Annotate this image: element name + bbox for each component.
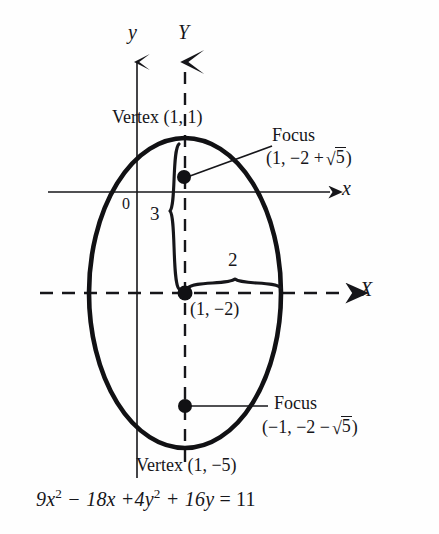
diagram-canvas	[0, 0, 439, 534]
focus-bottom-radicand: 5	[341, 416, 352, 436]
focus-bottom-close: )	[352, 417, 358, 437]
focus-top-title: Focus	[272, 126, 315, 145]
equation-term-plus-16y: + 16y	[166, 488, 214, 510]
focus-top-radicand: 5	[335, 147, 346, 167]
focus-top-coords-open: (1, −2 +	[266, 148, 324, 168]
focus-bottom-coords: (−1, −2 −√5)	[262, 417, 358, 437]
equation-term-minus-18x: − 18x	[67, 488, 115, 510]
semi-axis-horizontal-label: 2	[228, 250, 238, 270]
Y-axis-label: Y	[178, 22, 189, 43]
equation-term-9x2: 9x	[36, 488, 55, 510]
sqrt-icon-bottom: √5	[330, 417, 352, 437]
equation-term-4y2: +	[121, 488, 135, 510]
equation-rhs: = 11	[219, 488, 255, 510]
vertex-bottom-label: Vertex (1, −5)	[136, 456, 237, 475]
semi-axis-vertical-label: 3	[150, 204, 160, 224]
y-axis-label: y	[128, 22, 137, 43]
vertical-brace-3	[170, 144, 179, 289]
horizontal-brace-2	[188, 279, 281, 288]
sqrt-icon-top: √5	[324, 148, 346, 168]
ellipse-figure: y Y x X 0 Vertex (1, 1) Vertex (1, −5) (…	[0, 0, 439, 534]
focus-bottom-dot	[178, 399, 192, 413]
focus-top-coords: (1, −2 +√5)	[266, 148, 352, 168]
equation-coef-4y: 4y	[135, 488, 154, 510]
X-axis-label: X	[360, 279, 372, 300]
equation-exp-x2: 2	[55, 486, 62, 501]
equation: 9x2 − 18x +4y2 + 16y = 11	[36, 489, 256, 510]
vertex-top-label: Vertex (1, 1)	[112, 108, 202, 127]
focus-bottom-title: Focus	[274, 394, 317, 413]
focus-bottom-coords-open: (−1, −2 −	[262, 417, 330, 437]
focus-top-dot	[177, 170, 191, 184]
focus-top-leader-line	[190, 146, 272, 176]
x-axis-label: x	[342, 178, 351, 199]
origin-label: 0	[122, 196, 130, 213]
equation-exp-y2: 2	[154, 486, 161, 501]
focus-top-close: )	[346, 148, 352, 168]
center-coordinate-label: (1, −2)	[190, 300, 239, 319]
